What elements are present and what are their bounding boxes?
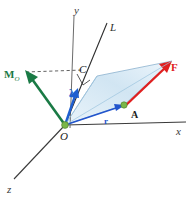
dashed-projection-line [26, 70, 83, 72]
x-axis-line [65, 122, 186, 125]
origin-dot [62, 122, 69, 129]
force-vector-F-label: F [171, 62, 178, 73]
moment-vector-M-O-label: MO [4, 69, 19, 83]
position-vector-r-label: r [104, 117, 108, 126]
x-axis-label: x [176, 126, 181, 137]
z-axis-label: z [7, 184, 11, 195]
moment-vector-M-O-label-text: M [4, 68, 14, 80]
vector-mechanics-diagram: y x z L O A C MO F λ r [0, 0, 192, 201]
moment-vector-M-O-subscript: O [14, 75, 19, 83]
z-axis-line [14, 125, 65, 179]
point-A-dot [121, 102, 127, 108]
y-axis-label: y [74, 5, 79, 16]
moment-vector-M-O-arrow [25, 70, 65, 125]
unit-vector-lambda-label: λ [69, 87, 74, 98]
origin-label: O [60, 131, 68, 142]
diagram-canvas [0, 0, 192, 201]
point-C-label: C [79, 64, 86, 75]
line-L-label: L [110, 22, 116, 33]
point-A-label: A [131, 110, 138, 120]
